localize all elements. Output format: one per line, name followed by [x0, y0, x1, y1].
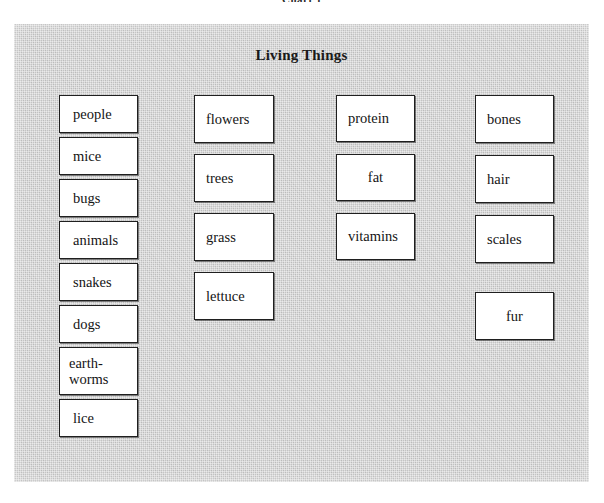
concept-label: protein: [348, 110, 414, 126]
concept-box: trees: [194, 154, 274, 202]
concept-label: fat: [337, 169, 414, 185]
concept-box: mice: [59, 137, 138, 175]
figure-caption: Chart 1: [0, 0, 604, 2]
concept-box: lettuce: [194, 272, 274, 320]
concept-label: fur: [476, 308, 553, 324]
concept-column-1: people mice bugs animals snakes dogs ear…: [59, 95, 138, 441]
concept-label: flowers: [206, 111, 273, 127]
concept-box: fur: [475, 292, 554, 340]
concept-box: vitamins: [336, 213, 415, 260]
concept-label: vitamins: [348, 228, 414, 244]
concept-box: people: [59, 95, 138, 133]
concept-box: scales: [475, 215, 554, 263]
concept-box: animals: [59, 221, 138, 259]
concept-box: protein: [336, 95, 415, 142]
concept-label: mice: [73, 148, 137, 164]
concept-label-line-2: worms: [69, 371, 108, 387]
concept-label: hair: [487, 171, 553, 187]
concept-column-4: bones hair scales fur: [475, 95, 554, 352]
concept-label: earth-worms: [69, 355, 137, 387]
concept-box: hair: [475, 155, 554, 203]
diagram-panel: Living Things people mice bugs animals s…: [14, 24, 589, 482]
concept-label: bugs: [73, 190, 137, 206]
concept-box: dogs: [59, 305, 138, 343]
concept-box: snakes: [59, 263, 138, 301]
concept-label: snakes: [73, 274, 137, 290]
concept-box: bugs: [59, 179, 138, 217]
concept-label: scales: [487, 231, 553, 247]
diagram-title: Living Things: [14, 47, 589, 64]
concept-box: flowers: [194, 95, 274, 143]
concept-column-3: protein fat vitamins: [336, 95, 415, 272]
concept-box: bones: [475, 95, 554, 143]
concept-box: earth-worms: [59, 347, 138, 395]
concept-label: trees: [206, 170, 273, 186]
concept-column-2: flowers trees grass lettuce: [194, 95, 274, 331]
concept-label: dogs: [73, 316, 137, 332]
concept-label: animals: [73, 232, 137, 248]
concept-label: lettuce: [206, 288, 273, 304]
concept-label: grass: [206, 229, 273, 245]
concept-label: people: [73, 106, 137, 122]
concept-label: bones: [487, 111, 553, 127]
concept-box: fat: [336, 154, 415, 201]
concept-label: lice: [73, 410, 137, 426]
concept-box: lice: [59, 399, 138, 437]
concept-label-line-1: earth-: [69, 355, 103, 371]
concept-box: grass: [194, 213, 274, 261]
